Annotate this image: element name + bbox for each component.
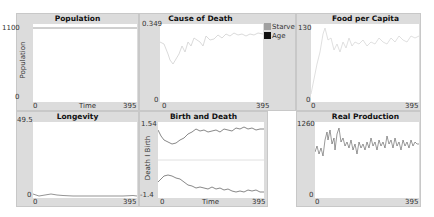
food-per-capita-ymax: 130 bbox=[298, 24, 311, 32]
birth-and-death-ymin: -1.4 bbox=[140, 191, 154, 199]
real-production-xmin: 0 bbox=[315, 198, 319, 206]
birth-and-death-ylabel: Death I Birth bbox=[144, 136, 152, 181]
food-per-capita-plot-area bbox=[311, 24, 419, 102]
food-per-capita-ymin: 0 bbox=[306, 96, 310, 104]
population-xmax: 395 bbox=[123, 102, 136, 110]
longevity-plot-panel: Longevity 49.5 0 0 395 bbox=[16, 111, 139, 207]
longevity-line bbox=[33, 122, 137, 198]
cause-of-death-xmax: 395 bbox=[256, 102, 269, 110]
population-ymin: 0 bbox=[15, 93, 19, 101]
population-plot-area bbox=[33, 24, 137, 102]
legend-item-starve: Starve bbox=[264, 22, 295, 31]
cause-of-death-ymax: 0.349 bbox=[142, 20, 162, 28]
age-swatch bbox=[264, 32, 271, 39]
food-per-capita-xmax: 395 bbox=[405, 102, 418, 110]
population-xmin: 0 bbox=[33, 102, 37, 110]
longevity-plot-title: Longevity bbox=[17, 112, 138, 122]
longevity-xmin: 0 bbox=[33, 198, 37, 206]
food-per-capita-plot-panel: Food per Capita 130 0 0 395 bbox=[296, 13, 421, 111]
cause-of-death-legend: Starve Age bbox=[264, 22, 295, 40]
birth-and-death-plot-panel: Birth and Death 1.54 -1.4 0 Time 395 Dea… bbox=[139, 111, 268, 207]
population-ylabel: Population bbox=[19, 42, 27, 79]
population-line bbox=[33, 24, 137, 102]
cause-of-death-xmin: 0 bbox=[162, 102, 166, 110]
legend-item-age: Age bbox=[264, 31, 295, 40]
legend-label-starve: Starve bbox=[272, 23, 295, 31]
real-production-line bbox=[315, 122, 419, 198]
cause-of-death-plot-area bbox=[160, 24, 263, 102]
cause-of-death-plot-panel: Cause of Death 0.349 0 0 395 Starve Age bbox=[139, 13, 296, 111]
real-production-plot-area bbox=[315, 122, 419, 198]
longevity-ymax: 49.5 bbox=[17, 116, 33, 124]
birth-and-death-ymax: 1.54 bbox=[141, 120, 157, 128]
starve-swatch bbox=[264, 23, 271, 30]
population-plot-title: Population bbox=[17, 14, 138, 24]
birth-and-death-lines bbox=[158, 122, 264, 198]
real-production-ymax: 1260 bbox=[297, 120, 315, 128]
legend-label-age: Age bbox=[272, 32, 286, 40]
real-production-ymin: 0 bbox=[309, 191, 313, 199]
birth-and-death-plot-title: Birth and Death bbox=[140, 112, 267, 122]
population-plot-panel: Population 1100 0 0 Time 395 Population bbox=[16, 13, 139, 111]
real-production-xmax: 395 bbox=[405, 198, 418, 206]
cause-of-death-ymin: 0 bbox=[154, 96, 158, 104]
birth-and-death-xmax: 395 bbox=[252, 198, 265, 206]
real-production-plot-title: Real Production bbox=[311, 112, 420, 122]
birth-and-death-xlabel: Time bbox=[202, 198, 219, 206]
birth-and-death-plot-area bbox=[158, 122, 264, 198]
longevity-plot-area bbox=[33, 122, 137, 198]
population-xlabel: Time bbox=[79, 102, 96, 110]
real-production-plot-panel: Real Production 1260 0 0 395 bbox=[296, 111, 421, 207]
food-per-capita-xmin: 0 bbox=[311, 102, 315, 110]
longevity-ymin: 0 bbox=[27, 191, 31, 199]
food-per-capita-plot-title: Food per Capita bbox=[311, 14, 420, 24]
birth-and-death-xmin: 0 bbox=[160, 198, 164, 206]
population-ymax: 1100 bbox=[2, 24, 20, 32]
longevity-xmax: 395 bbox=[123, 198, 136, 206]
cause-of-death-line bbox=[160, 24, 263, 102]
food-per-capita-line bbox=[311, 24, 419, 102]
